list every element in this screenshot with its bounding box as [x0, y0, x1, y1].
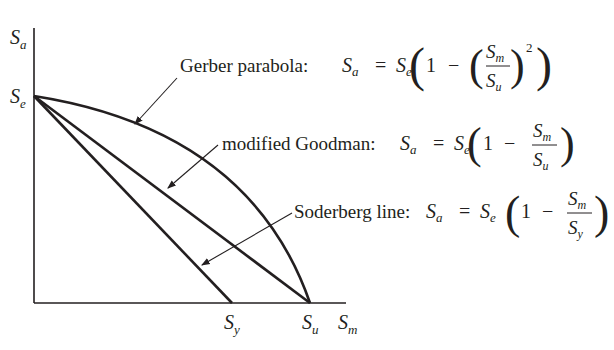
- svg-text:): ): [536, 38, 552, 92]
- svg-text:Sm: Sm: [486, 41, 505, 65]
- svg-text:Su: Su: [486, 70, 502, 94]
- diagram-canvas: Sa Se Sy Su Sm Gerber parabola: Sa = Se …: [0, 0, 614, 350]
- svg-text:Se: Se: [480, 200, 496, 225]
- svg-text:=: =: [433, 132, 444, 154]
- y-axis-label: Sa: [10, 26, 27, 52]
- svg-text:modified Goodman:: modified Goodman:: [222, 133, 376, 154]
- se-label: Se: [10, 85, 26, 111]
- goodman-equation: modified Goodman: Sa = Se ( 1 − Sm Su ): [222, 119, 575, 173]
- svg-text:(: (: [469, 41, 484, 90]
- svg-text:1: 1: [426, 54, 436, 76]
- svg-text:): ): [594, 187, 609, 238]
- svg-text:1: 1: [521, 200, 531, 222]
- svg-text:−: −: [504, 132, 515, 154]
- fatigue-failure-diagram: Sa Se Sy Su Sm Gerber parabola: Sa = Se …: [0, 0, 614, 350]
- svg-text:1: 1: [483, 132, 493, 154]
- svg-text:Sa: Sa: [400, 132, 417, 157]
- gerber-arrow-icon: [135, 78, 177, 124]
- gerber-equation: Gerber parabola: Sa = Se ( 1 − ( Sm Su )…: [180, 38, 552, 94]
- soderberg-equation: Soderberg line: Sa = Se ( 1 − Sm Sy ): [294, 187, 609, 241]
- svg-text:−: −: [448, 54, 459, 76]
- svg-text:=: =: [459, 200, 470, 222]
- svg-text:Soderberg line:: Soderberg line:: [294, 201, 410, 222]
- svg-text:Su: Su: [533, 149, 549, 173]
- svg-text:Sy: Sy: [568, 217, 584, 241]
- svg-text:(: (: [467, 119, 482, 168]
- svg-text:): ): [560, 119, 575, 168]
- x-axis-label: Sm: [338, 311, 357, 337]
- sy-label: Sy: [224, 311, 240, 337]
- svg-text:): ): [510, 41, 525, 90]
- svg-text:Sm: Sm: [533, 120, 552, 144]
- svg-text:Sm: Sm: [568, 188, 587, 212]
- goodman-line: [34, 96, 310, 303]
- svg-text:(: (: [409, 38, 425, 92]
- svg-text:Gerber parabola:: Gerber parabola:: [180, 55, 308, 76]
- svg-text:(: (: [505, 187, 520, 238]
- svg-text:Sa: Sa: [426, 200, 443, 225]
- soderberg-line: [34, 96, 232, 303]
- svg-text:=: =: [375, 54, 386, 76]
- svg-text:2: 2: [526, 40, 533, 55]
- su-label: Su: [302, 311, 319, 337]
- svg-text:Sa: Sa: [342, 54, 359, 79]
- svg-text:−: −: [542, 200, 553, 222]
